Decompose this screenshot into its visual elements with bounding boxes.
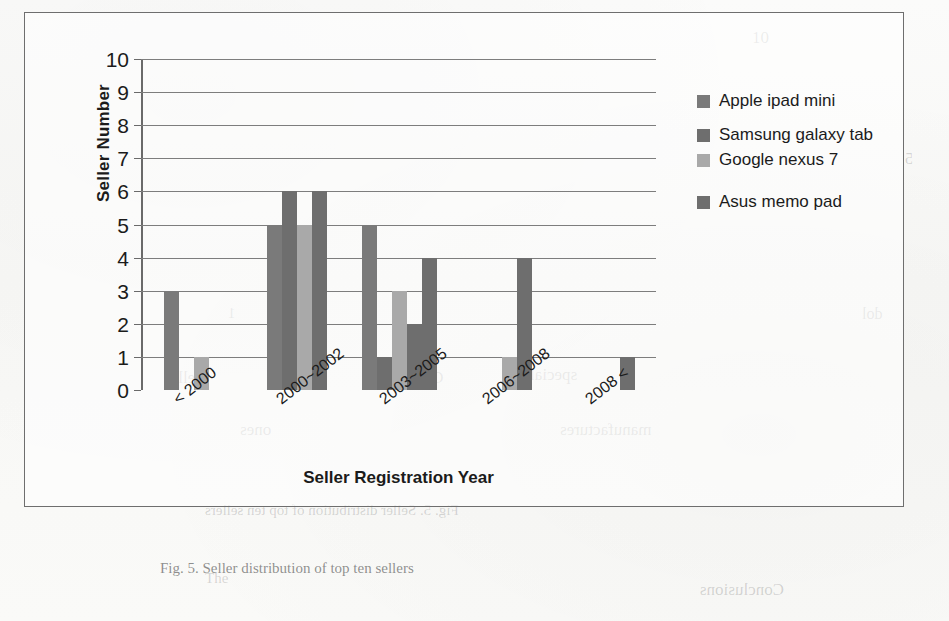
- y-axis-tick: [134, 258, 141, 259]
- y-axis-tick: [134, 324, 141, 325]
- y-tick-label: 10: [106, 49, 129, 70]
- y-tick-label: 6: [117, 181, 129, 202]
- y-tick-label: 0: [117, 380, 129, 401]
- legend-label: Asus memo pad: [719, 192, 842, 212]
- bar[interactable]: [362, 225, 377, 391]
- legend-item[interactable]: Google nexus 7: [697, 150, 897, 170]
- legend-swatch-icon: [697, 154, 710, 167]
- legend-label: Apple ipad mini: [719, 91, 835, 111]
- plot-area: 012345678910: [141, 59, 656, 390]
- y-axis-tick: [134, 59, 141, 60]
- y-tick-label: 4: [117, 247, 129, 268]
- y-axis-tick: [134, 390, 141, 391]
- bar-group: [553, 59, 656, 390]
- y-axis-tick: [134, 291, 141, 292]
- y-axis-tick: [134, 225, 141, 226]
- y-tick-label: 5: [117, 214, 129, 235]
- ghost-text: 5: [905, 150, 913, 168]
- bar[interactable]: [282, 191, 297, 390]
- bar-chart: Seller Number 012345678910 < 20002000~20…: [25, 13, 905, 508]
- legend-swatch-icon: [697, 196, 710, 209]
- y-tick-label: 2: [117, 313, 129, 334]
- legend-item[interactable]: Asus memo pad: [697, 192, 897, 212]
- y-tick-label: 8: [117, 115, 129, 136]
- legend-swatch-icon: [697, 95, 710, 108]
- legend-item[interactable]: Apple ipad mini: [697, 91, 897, 111]
- legend-item[interactable]: Samsung galaxy tab: [697, 125, 897, 145]
- figure-frame: Seller Number 012345678910 < 20002000~20…: [24, 12, 904, 507]
- bar-group: [348, 59, 451, 390]
- bar-group: [245, 59, 348, 390]
- bar[interactable]: [267, 225, 282, 391]
- bar-groups: [143, 59, 657, 390]
- chart-legend: Apple ipad miniSamsung galaxy tabGoogle …: [697, 91, 897, 225]
- legend-swatch-icon: [697, 129, 710, 142]
- x-axis-title: Seller Registration Year: [141, 468, 656, 488]
- bar-group: [451, 59, 554, 390]
- y-axis-tick: [134, 191, 141, 192]
- y-tick-label: 7: [117, 148, 129, 169]
- y-axis-tick: [134, 125, 141, 126]
- y-axis-tick: [134, 92, 141, 93]
- bar-group: [143, 59, 246, 390]
- y-tick-label: 1: [117, 346, 129, 367]
- y-axis-tick: [134, 357, 141, 358]
- legend-label: Google nexus 7: [719, 150, 838, 170]
- y-axis-tick: [134, 158, 141, 159]
- y-tick-label: 3: [117, 280, 129, 301]
- figure-caption: Fig. 5. Seller distribution of top ten s…: [160, 560, 414, 577]
- y-tick-label: 9: [117, 82, 129, 103]
- legend-label: Samsung galaxy tab: [719, 125, 873, 145]
- y-axis-title: Seller Number: [94, 58, 114, 228]
- bar[interactable]: [164, 291, 179, 390]
- ghost-text: Conclusions: [700, 580, 784, 600]
